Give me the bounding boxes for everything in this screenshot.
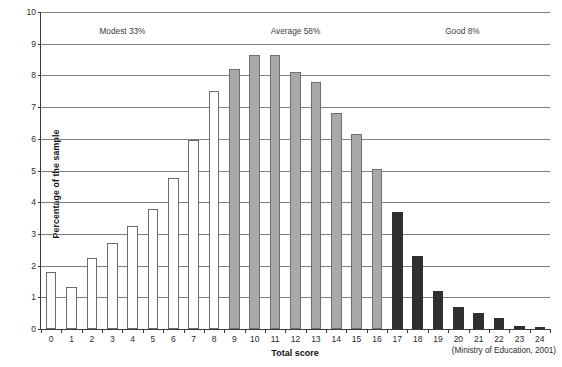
bar: [494, 318, 505, 329]
y-tick-label: 1: [31, 293, 36, 302]
y-tick-label: 7: [31, 103, 36, 112]
x-tick-label: 20: [454, 335, 463, 344]
x-tickmark: [224, 329, 225, 333]
x-tickmark: [61, 329, 62, 333]
bar: [331, 113, 342, 329]
x-tickmark: [387, 329, 388, 333]
x-tickmark: [122, 329, 123, 333]
y-tick-label: 0: [31, 325, 36, 334]
x-tick-label: 3: [110, 335, 115, 344]
bar: [127, 226, 138, 329]
region-label: Good 8%: [445, 26, 480, 36]
bar: [148, 209, 159, 329]
bar: [229, 69, 240, 329]
x-tickmark: [102, 329, 103, 333]
source-note: (Ministry of Education, 2001): [452, 346, 556, 355]
plot-area: 012345678910 012345678910111213141516171…: [40, 12, 550, 330]
x-tickmark: [143, 329, 144, 333]
y-tick-label: 2: [31, 261, 36, 270]
x-tickmark: [509, 329, 510, 333]
x-tickmark: [407, 329, 408, 333]
x-tickmark: [469, 329, 470, 333]
x-tickmark: [448, 329, 449, 333]
x-tick-label: 24: [535, 335, 544, 344]
x-tickmark: [428, 329, 429, 333]
x-tickmark: [204, 329, 205, 333]
bar: [209, 91, 220, 329]
bar: [188, 140, 199, 329]
y-tick-label: 8: [31, 71, 36, 80]
x-tick-label: 15: [352, 335, 361, 344]
x-tickmark: [306, 329, 307, 333]
x-tick-label: 5: [151, 335, 156, 344]
x-tick-label: 10: [250, 335, 259, 344]
x-tickmark: [285, 329, 286, 333]
bar-series: [41, 12, 550, 329]
x-tick-label: 6: [171, 335, 176, 344]
bar: [290, 72, 301, 329]
bar: [66, 287, 77, 329]
x-tick-label: 2: [90, 335, 95, 344]
x-tick-label: 8: [212, 335, 217, 344]
x-tickmark: [550, 329, 551, 333]
bar: [453, 307, 464, 329]
region-label: Average 58%: [271, 26, 321, 36]
x-tickmark: [41, 329, 42, 333]
bar: [433, 291, 444, 329]
x-tickmark: [367, 329, 368, 333]
x-tickmark: [265, 329, 266, 333]
y-tick-label: 10: [27, 8, 36, 17]
y-tick-label: 3: [31, 230, 36, 239]
x-tick-label: 16: [372, 335, 381, 344]
x-tick-label: 17: [393, 335, 402, 344]
x-tick-label: 14: [331, 335, 340, 344]
x-tick-label: 0: [49, 335, 54, 344]
bar: [270, 55, 281, 329]
x-tickmark: [326, 329, 327, 333]
histogram-chart: Percentage of the sample 012345678910 01…: [0, 0, 562, 367]
x-tick-label: 9: [232, 335, 237, 344]
x-tickmark: [346, 329, 347, 333]
x-tick-label: 22: [494, 335, 503, 344]
y-tick-label: 4: [31, 198, 36, 207]
x-tickmark: [184, 329, 185, 333]
x-tick-label: 19: [433, 335, 442, 344]
x-tick-label: 11: [271, 335, 280, 344]
x-tick-label: 1: [69, 335, 74, 344]
bar: [535, 327, 546, 329]
x-tickmark: [489, 329, 490, 333]
x-tick-label: 13: [311, 335, 320, 344]
bar: [46, 272, 57, 329]
x-tickmark: [530, 329, 531, 333]
x-tick-label: 12: [291, 335, 300, 344]
x-tick-label: 7: [191, 335, 196, 344]
x-tick-label: 21: [474, 335, 483, 344]
x-tick-label: 23: [515, 335, 524, 344]
bar: [87, 258, 98, 329]
bar: [514, 326, 525, 329]
bar: [372, 169, 383, 329]
region-label: Modest 33%: [99, 26, 145, 36]
bar: [107, 243, 118, 329]
x-tick-label: 4: [130, 335, 135, 344]
bar: [412, 256, 423, 329]
bar: [473, 313, 484, 329]
x-tickmark: [163, 329, 164, 333]
bar: [351, 134, 362, 329]
bar: [311, 82, 322, 329]
y-tick-label: 9: [31, 39, 36, 48]
y-tick-label: 5: [31, 166, 36, 175]
bar: [392, 212, 403, 329]
x-tickmark: [82, 329, 83, 333]
bar: [168, 178, 179, 329]
y-tick-label: 6: [31, 135, 36, 144]
x-tick-label: 18: [413, 335, 422, 344]
bar: [249, 55, 260, 329]
x-tickmark: [245, 329, 246, 333]
